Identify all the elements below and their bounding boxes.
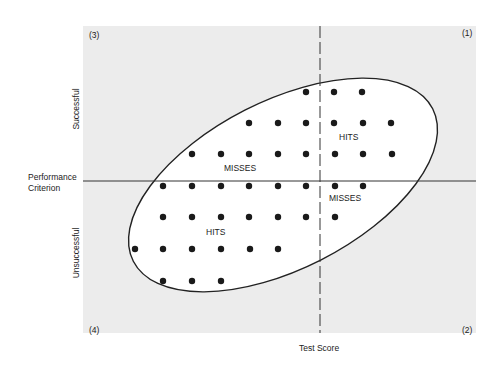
quadrant-2-label: (2) — [462, 325, 472, 335]
data-point — [275, 183, 281, 189]
test-score-label: Test Score — [299, 343, 339, 353]
data-point — [360, 151, 366, 157]
successful-label: Successful — [71, 79, 81, 139]
data-point — [160, 214, 166, 220]
data-point — [359, 89, 365, 95]
data-point — [189, 151, 195, 157]
data-point — [218, 214, 224, 220]
performance-label: Performance — [28, 172, 77, 182]
data-point — [331, 89, 337, 95]
data-point — [246, 183, 252, 189]
data-point — [246, 151, 252, 157]
data-point — [189, 183, 195, 189]
data-point — [218, 278, 224, 284]
diagram-canvas — [0, 0, 500, 369]
misses-upper-label: MISSES — [224, 163, 256, 173]
data-point — [275, 214, 281, 220]
data-point — [303, 120, 309, 126]
hits-lower-label: HITS — [206, 227, 225, 237]
data-point — [189, 278, 195, 284]
criterion-label: Criterion — [28, 183, 60, 193]
data-point — [332, 151, 338, 157]
quadrant-1-label: (1) — [462, 28, 472, 38]
data-point — [189, 214, 195, 220]
data-point — [160, 278, 166, 284]
data-point — [132, 246, 138, 252]
data-point — [303, 183, 309, 189]
data-point — [388, 120, 394, 126]
quadrant-4-label: (4) — [89, 325, 99, 335]
data-point — [246, 214, 252, 220]
data-point — [332, 214, 338, 220]
data-point — [246, 120, 252, 126]
data-point — [332, 183, 338, 189]
data-point — [303, 214, 309, 220]
data-point — [360, 183, 366, 189]
quadrant-3-label: (3) — [89, 30, 99, 40]
data-point — [389, 151, 395, 157]
misses-lower-label: MISSES — [329, 193, 361, 203]
data-point — [331, 120, 337, 126]
data-point — [275, 151, 281, 157]
data-point — [303, 89, 309, 95]
hits-upper-label: HITS — [339, 132, 358, 142]
data-point — [160, 246, 166, 252]
unsuccessful-label: Unsuccessful — [71, 219, 81, 287]
data-point — [218, 246, 224, 252]
data-point — [160, 183, 166, 189]
data-point — [189, 246, 195, 252]
data-point — [218, 151, 224, 157]
data-point — [275, 120, 281, 126]
data-point — [247, 246, 253, 252]
data-point — [303, 151, 309, 157]
data-point — [275, 246, 281, 252]
data-point — [360, 120, 366, 126]
data-point — [218, 183, 224, 189]
